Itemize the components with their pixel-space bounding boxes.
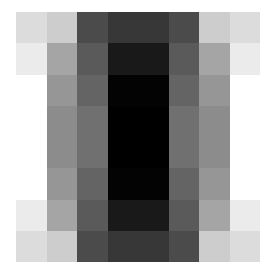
heatmap-cell: [108, 231, 139, 262]
heatmap-grid: [16, 12, 260, 262]
heatmap-cell: [230, 200, 261, 231]
heatmap-cell: [138, 200, 169, 231]
heatmap-cell: [47, 168, 78, 199]
heatmap-cell: [199, 200, 230, 231]
heatmap-cell: [230, 12, 261, 43]
heatmap-cell: [230, 137, 261, 168]
heatmap-cell: [138, 43, 169, 74]
heatmap-cell: [47, 231, 78, 262]
heatmap-cell: [199, 137, 230, 168]
heatmap-cell: [16, 168, 47, 199]
heatmap-cell: [199, 12, 230, 43]
heatmap-cell: [16, 12, 47, 43]
heatmap-cell: [169, 137, 200, 168]
heatmap-cell: [108, 43, 139, 74]
heatmap-cell: [108, 137, 139, 168]
heatmap-cell: [77, 12, 108, 43]
heatmap-cell: [138, 137, 169, 168]
heatmap-cell: [47, 12, 78, 43]
heatmap-cell: [199, 43, 230, 74]
heatmap-cell: [169, 106, 200, 137]
heatmap-cell: [138, 168, 169, 199]
heatmap-cell: [77, 75, 108, 106]
heatmap-cell: [16, 75, 47, 106]
heatmap-cell: [169, 75, 200, 106]
heatmap-cell: [108, 106, 139, 137]
heatmap-cell: [16, 200, 47, 231]
heatmap-cell: [16, 231, 47, 262]
heatmap-cell: [169, 12, 200, 43]
heatmap-cell: [16, 43, 47, 74]
heatmap-cell: [230, 43, 261, 74]
heatmap-cell: [108, 75, 139, 106]
heatmap-cell: [47, 43, 78, 74]
heatmap-cell: [199, 106, 230, 137]
heatmap-cell: [47, 137, 78, 168]
heatmap-cell: [169, 43, 200, 74]
heatmap-cell: [77, 137, 108, 168]
heatmap-cell: [77, 168, 108, 199]
heatmap-cell: [230, 168, 261, 199]
heatmap-cell: [199, 75, 230, 106]
heatmap-cell: [77, 231, 108, 262]
heatmap-cell: [47, 200, 78, 231]
heatmap-cell: [199, 168, 230, 199]
heatmap-cell: [199, 231, 230, 262]
heatmap-cell: [77, 200, 108, 231]
heatmap-cell: [230, 106, 261, 137]
heatmap-cell: [108, 12, 139, 43]
heatmap-cell: [169, 200, 200, 231]
heatmap-cell: [77, 106, 108, 137]
heatmap-cell: [138, 231, 169, 262]
heatmap-cell: [16, 106, 47, 137]
heatmap-cell: [138, 12, 169, 43]
heatmap-cell: [169, 168, 200, 199]
heatmap-cell: [47, 75, 78, 106]
heatmap-cell: [108, 168, 139, 199]
heatmap-cell: [77, 43, 108, 74]
heatmap-cell: [108, 200, 139, 231]
heatmap-cell: [47, 106, 78, 137]
heatmap-cell: [230, 231, 261, 262]
heatmap-cell: [230, 75, 261, 106]
heatmap-cell: [169, 231, 200, 262]
heatmap-cell: [138, 106, 169, 137]
heatmap-cell: [138, 75, 169, 106]
heatmap-cell: [16, 137, 47, 168]
